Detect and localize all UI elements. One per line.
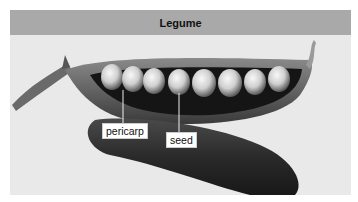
figure-title: Legume <box>10 10 351 35</box>
title-text: Legume <box>159 17 201 29</box>
seed-label: seed <box>166 132 197 148</box>
pericarp-label: pericarp <box>102 123 148 139</box>
legume-pod-photo <box>10 35 351 195</box>
legume-figure: Legume <box>10 10 351 195</box>
